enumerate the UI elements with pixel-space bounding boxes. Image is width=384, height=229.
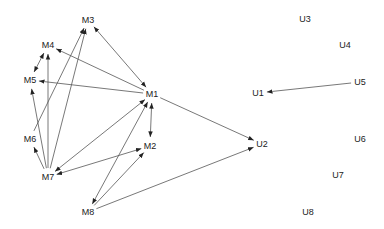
node-m6: M6 [24, 134, 37, 144]
node-u1: U1 [252, 88, 264, 98]
nodes-layer: M1M2M3M4M5M6M7M8U1U2U3U4U5U6U7U8 [24, 14, 366, 217]
node-m8: M8 [82, 207, 95, 217]
node-m3: M3 [82, 15, 95, 25]
edge-m1-m2 [150, 103, 151, 137]
edge-m7-m5 [32, 89, 47, 168]
edge-m1-m8 [92, 102, 147, 204]
edge-m4-m5 [34, 53, 44, 72]
edge-u5-u1 [267, 83, 351, 92]
edge-m7-m2 [57, 149, 142, 175]
edge-m7-m6 [34, 147, 44, 169]
node-u6: U6 [354, 134, 366, 144]
edge-m1-m7 [55, 100, 145, 172]
node-m5: M5 [24, 75, 37, 85]
edge-m1-u2 [160, 98, 254, 141]
node-m4: M4 [42, 40, 55, 50]
node-u3: U3 [299, 14, 311, 24]
edges-layer [32, 27, 352, 209]
node-u2: U2 [256, 139, 268, 149]
edge-m7-m3 [50, 29, 86, 169]
node-m1: M1 [146, 89, 159, 99]
edge-m1-m3 [94, 27, 146, 87]
node-u5: U5 [354, 77, 366, 87]
graph-diagram: M1M2M3M4M5M6M7M8U1U2U3U4U5U6U7U8 [0, 0, 384, 229]
node-m7: M7 [42, 172, 55, 182]
node-m2: M2 [144, 141, 157, 151]
node-u4: U4 [339, 40, 351, 50]
node-u7: U7 [332, 170, 344, 180]
node-u8: U8 [302, 207, 314, 217]
